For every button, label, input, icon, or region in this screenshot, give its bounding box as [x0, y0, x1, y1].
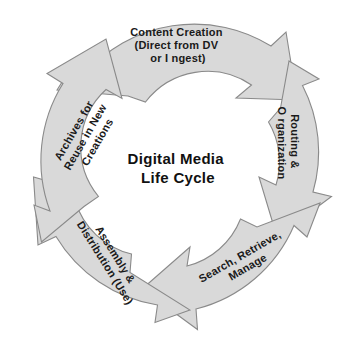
center-title: Digital Media Life Cycle [128, 150, 229, 186]
segment-label-line: Content Creation [130, 26, 222, 38]
digital-media-life-cycle-diagram: Content Creation (Direct from DV or I ng… [0, 0, 359, 347]
segment-label-line: (Direct from DV [135, 39, 219, 51]
segment-routing-organization-label: Routing & O rganization [276, 107, 301, 180]
segment-label-line: or I ngest) [150, 52, 206, 64]
center-title-line: Life Cycle [141, 169, 215, 186]
cycle-diagram-svg: Content Creation (Direct from DV or I ng… [0, 0, 359, 347]
center-title-line: Digital Media [128, 150, 225, 167]
segment-label-line: Routing & [289, 114, 301, 168]
segment-archives-reuse: Archives for Reuse in New Creations [34, 39, 122, 242]
segment-label-line: O rganization [276, 107, 288, 180]
